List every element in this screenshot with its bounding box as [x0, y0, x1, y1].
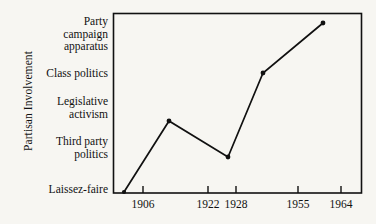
x-axis-ticks: [143, 186, 341, 193]
data-line-partisan-involvement: [124, 23, 323, 192]
data-point-marker: [261, 71, 266, 76]
plot-area: [0, 0, 376, 224]
data-point-marker: [122, 190, 126, 194]
data-point-marker: [321, 21, 326, 26]
data-point-marker: [226, 155, 231, 160]
plot-frame: [114, 14, 362, 194]
data-point-marker: [167, 119, 172, 124]
chart-figure: Partisan Involvement Party campaign appa…: [0, 0, 376, 224]
